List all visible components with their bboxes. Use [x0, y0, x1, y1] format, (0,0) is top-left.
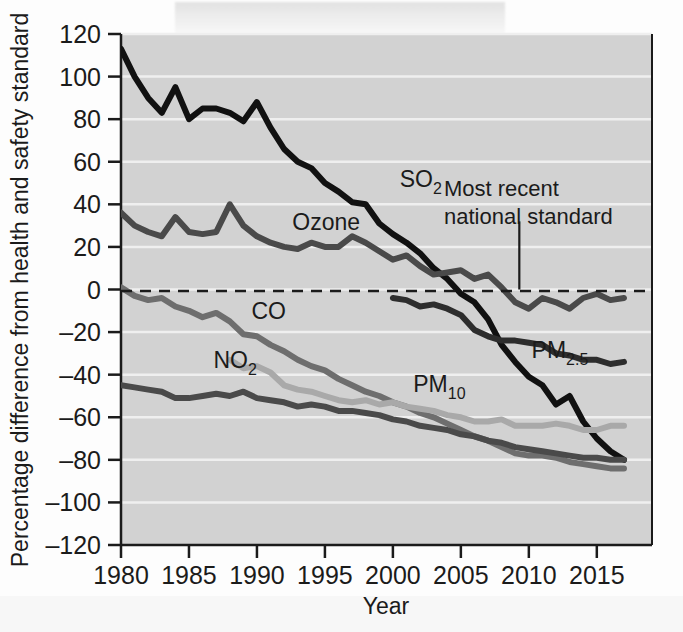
series-label-subscript: 2 [433, 180, 442, 197]
x-tick-label: 1980 [93, 561, 149, 589]
series-label-subscript: 2.5 [566, 351, 588, 368]
x-tick-label: 2000 [365, 561, 421, 589]
y-tick-label: 100 [59, 63, 101, 91]
y-tick-label: –60 [59, 403, 101, 431]
x-tick-label: 2005 [433, 561, 489, 589]
x-axis-ticks: 19801985199019952000200520102015 [93, 545, 624, 589]
x-tick-label: 2015 [569, 561, 625, 589]
air-quality-trend-chart: 120100806040200–20–40–60–80–100–120 1980… [0, 0, 683, 632]
y-tick-label: 60 [73, 148, 101, 176]
x-tick-label: 1985 [161, 561, 217, 589]
series-label-subscript: 2 [248, 361, 257, 378]
y-tick-label: –120 [45, 531, 101, 559]
series-label-text: Ozone [292, 209, 360, 235]
x-tick-label: 1995 [297, 561, 353, 589]
series-label-subscript: 10 [448, 385, 466, 402]
x-tick-label: 1990 [229, 561, 285, 589]
y-tick-label: 120 [59, 20, 101, 48]
series-label-text: CO [252, 298, 287, 324]
y-tick-label: –80 [59, 446, 101, 474]
annotation-line-2: national standard [444, 204, 613, 229]
y-tick-label: 80 [73, 105, 101, 133]
x-tick-label: 2010 [501, 561, 557, 589]
y-axis-ticks: 120100806040200–20–40–60–80–100–120 [45, 20, 121, 559]
series-label-ozone: Ozone [292, 209, 360, 235]
y-tick-label: 0 [87, 276, 101, 304]
series-label-co: CO [252, 298, 287, 324]
y-tick-label: –40 [59, 361, 101, 389]
y-tick-label: –20 [59, 318, 101, 346]
annotation-line-1: Most recent [444, 176, 559, 201]
y-axis-title: Percentage difference from health and sa… [7, 13, 33, 567]
y-tick-label: 20 [73, 233, 101, 261]
y-tick-label: –100 [45, 488, 101, 516]
y-tick-label: 40 [73, 190, 101, 218]
x-axis-title: Year [363, 593, 410, 619]
